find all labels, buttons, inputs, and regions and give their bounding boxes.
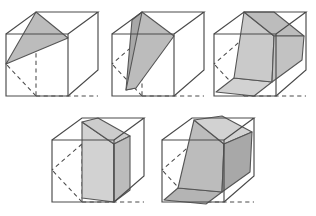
- shaded-faces-1: [6, 12, 68, 64]
- cube-panel-1: [4, 4, 104, 104]
- shaded-faces-2: [126, 12, 174, 90]
- cube-panel-4: [50, 110, 150, 210]
- cube-panel-2: [110, 4, 210, 104]
- figure-root: [0, 0, 316, 216]
- right-face: [114, 136, 130, 202]
- cube-panel-3: [212, 4, 312, 104]
- shaded-faces-4: [82, 118, 130, 202]
- cube-panel-5: [160, 110, 268, 210]
- triangle-face: [6, 12, 68, 64]
